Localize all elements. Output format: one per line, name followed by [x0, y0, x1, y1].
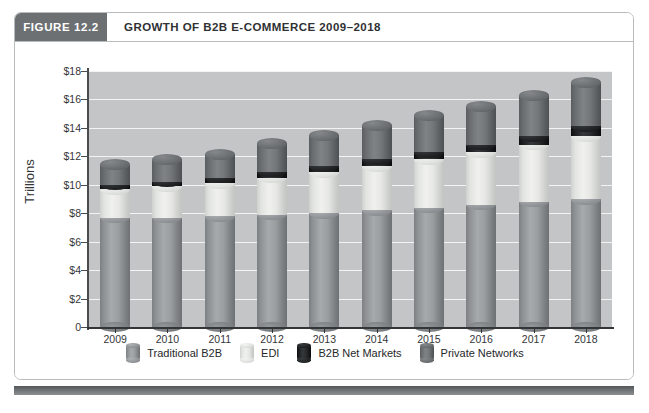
legend-swatch-traditional-b2b [126, 345, 140, 360]
bar-segment [362, 159, 392, 166]
bar-segment [571, 126, 601, 136]
y-tick-label: 0 [23, 321, 81, 333]
bar-segment [257, 215, 287, 327]
figure-root: FIGURE 12.2 GROWTH OF B2B E-COMMERCE 200… [0, 0, 649, 413]
bar-segment-body [466, 107, 496, 145]
y-tick-mark [81, 213, 87, 214]
plot-area [89, 71, 612, 327]
legend-item[interactable]: Private Networks [420, 345, 524, 360]
bar-segment-body [466, 152, 496, 205]
stacked-bar [152, 159, 182, 327]
y-tick-label: $6 [23, 236, 81, 248]
y-axis-labels: 0$2$4$6$8$10$12$14$16$18 [15, 42, 81, 380]
x-tick-mark [220, 329, 221, 333]
bar-segment [205, 178, 235, 184]
bar-segment [414, 115, 444, 152]
legend-swatch-cap [420, 343, 434, 349]
legend-swatch-base [420, 357, 434, 363]
bar-segment-body [571, 136, 601, 199]
legend-label: Traditional B2B [147, 347, 222, 359]
bar-segment [257, 172, 287, 178]
y-tick-mark [81, 327, 87, 328]
bar-segment [414, 159, 444, 207]
bar-segment [152, 218, 182, 328]
bar-segment-body [362, 210, 392, 327]
legend-item[interactable]: Traditional B2B [126, 345, 222, 360]
chart-legend: Traditional B2BEDIB2B Net MarketsPrivate… [15, 345, 634, 360]
bar-segment-cap [571, 77, 601, 88]
bar-segment-body [257, 215, 287, 327]
stacked-bar [362, 125, 392, 327]
stacked-bar [257, 144, 287, 327]
stacked-bar [309, 135, 339, 327]
legend-swatch-cap [126, 343, 140, 349]
stacked-bar [571, 82, 601, 327]
bar-segment [519, 95, 549, 136]
bar-segment-body [414, 159, 444, 207]
stacked-bar [414, 115, 444, 327]
bar-segment [362, 210, 392, 327]
bar-segment [152, 159, 182, 182]
bar-segment-body [571, 82, 601, 126]
legend-swatch-cap [297, 343, 311, 349]
bar-segment [257, 144, 287, 172]
bar-segment [100, 218, 130, 328]
legend-swatch-cap [240, 343, 254, 349]
bar-segment [571, 82, 601, 126]
figure-header: FIGURE 12.2 GROWTH OF B2B E-COMMERCE 200… [15, 13, 633, 42]
stacked-bar [519, 95, 549, 327]
figure-bottom-rule [14, 386, 634, 395]
x-tick-label: 2009 [103, 333, 126, 345]
stacked-bar [466, 107, 496, 327]
legend-swatch-private-networks [420, 345, 434, 360]
bar-segment-cap [414, 110, 444, 121]
bar-segment [519, 145, 549, 202]
bar-segment [205, 183, 235, 216]
legend-label: Private Networks [441, 347, 524, 359]
legend-label: B2B Net Markets [318, 347, 401, 359]
x-tick-label: 2014 [365, 333, 388, 345]
stacked-bar [205, 155, 235, 327]
bar-segment-body [519, 202, 549, 327]
bar-segment-cap [519, 90, 549, 101]
bar-segment [205, 155, 235, 178]
bar-segment-body [152, 218, 182, 328]
y-tick-mark [81, 156, 87, 157]
bar-segment [257, 178, 287, 215]
bar-segment-body [309, 213, 339, 327]
figure-frame: FIGURE 12.2 GROWTH OF B2B E-COMMERCE 200… [14, 12, 634, 380]
x-tick-mark [377, 329, 378, 333]
bar-segment [309, 166, 339, 172]
bar-segment-body [519, 95, 549, 136]
bar-segment-body [362, 166, 392, 210]
bar-segment [466, 107, 496, 145]
bar-segment-body [257, 178, 287, 215]
bar-segment-body [519, 145, 549, 202]
bar-segment [571, 199, 601, 327]
y-tick-mark [81, 128, 87, 129]
legend-swatch-edi [240, 345, 254, 360]
bar-segment [519, 202, 549, 327]
y-axis-line [87, 68, 89, 330]
chart-body: Trillions 0$2$4$6$8$10$12$14$16$18 20092… [15, 42, 634, 380]
bar-segment-body [100, 218, 130, 328]
y-tick-mark [81, 185, 87, 186]
bar-segment [519, 136, 549, 145]
x-tick-label: 2013 [313, 333, 336, 345]
y-tick-mark [81, 270, 87, 271]
bar-segment [466, 145, 496, 152]
x-tick-mark [272, 329, 273, 333]
legend-item[interactable]: B2B Net Markets [297, 345, 401, 360]
x-tick-label: 2010 [156, 333, 179, 345]
bar-segment-body [571, 199, 601, 327]
bar-segment [309, 213, 339, 327]
x-axis-line [87, 327, 614, 329]
y-tick-mark [81, 71, 87, 72]
x-tick-mark [167, 329, 168, 333]
x-tick-label: 2012 [260, 333, 283, 345]
bar-segment [309, 172, 339, 213]
legend-item[interactable]: EDI [240, 345, 279, 360]
x-tick-label: 2018 [574, 333, 597, 345]
x-tick-label: 2017 [522, 333, 545, 345]
x-tick-label: 2016 [470, 333, 493, 345]
